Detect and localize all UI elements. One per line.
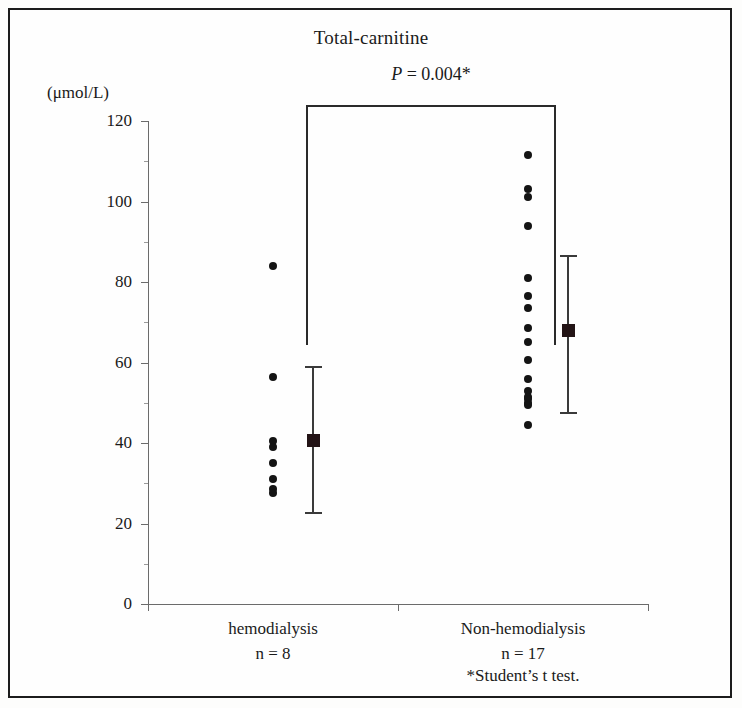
y-axis-tick	[141, 202, 148, 203]
data-point	[269, 489, 277, 497]
data-point	[524, 338, 532, 346]
mean-marker	[307, 434, 320, 447]
y-axis-tick	[141, 363, 148, 364]
data-point	[524, 375, 532, 383]
footnote: *Student’s t test.	[398, 666, 648, 686]
y-axis-minor-tick	[144, 483, 148, 484]
plot-area: 020406080100120hemodialysisn = 8Non-hemo…	[0, 0, 742, 708]
data-point	[524, 401, 532, 409]
data-point	[524, 304, 532, 312]
error-bar-lower-cap	[560, 412, 577, 414]
figure-root: Total-carnitine P = 0.004* (μmol/L) 0204…	[0, 0, 742, 708]
y-axis-tick	[141, 524, 148, 525]
y-axis-minor-tick	[144, 564, 148, 565]
group-sample-size: n = 8	[148, 642, 398, 667]
y-axis-tick-label: 100	[62, 193, 132, 210]
data-point	[269, 373, 277, 381]
x-axis-category-label-1: hemodialysisn = 8	[148, 617, 398, 666]
mean-marker	[562, 324, 575, 337]
data-point	[269, 443, 277, 451]
group-name: hemodialysis	[148, 617, 398, 642]
data-point	[524, 292, 532, 300]
y-axis-tick-label: 120	[62, 112, 132, 129]
x-axis-left-tick	[148, 604, 149, 611]
data-point	[524, 222, 532, 230]
x-axis-category-divider-tick	[398, 604, 399, 611]
y-axis-tick	[141, 604, 148, 605]
y-axis-minor-tick	[144, 242, 148, 243]
data-point	[269, 262, 277, 270]
group-name: Non-hemodialysis	[398, 617, 648, 642]
y-axis-tick	[141, 443, 148, 444]
y-axis-tick-label: 0	[62, 595, 132, 612]
y-axis-line	[148, 121, 149, 605]
data-point	[524, 274, 532, 282]
x-axis-category-label-2: Non-hemodialysisn = 17	[398, 617, 648, 666]
data-point	[269, 475, 277, 483]
y-axis-tick-label: 20	[62, 515, 132, 532]
y-axis-tick-label: 80	[62, 273, 132, 290]
data-point	[524, 151, 532, 159]
data-point	[524, 421, 532, 429]
y-axis-minor-tick	[144, 161, 148, 162]
y-axis-tick	[141, 121, 148, 122]
data-point	[524, 356, 532, 364]
data-point	[524, 185, 532, 193]
y-axis-tick-label: 40	[62, 434, 132, 451]
group-sample-size: n = 17	[398, 642, 648, 667]
error-bar-lower-cap	[305, 512, 322, 514]
error-bar-upper-cap	[305, 366, 322, 368]
y-axis-minor-tick	[144, 322, 148, 323]
data-point	[269, 459, 277, 467]
data-point	[524, 324, 532, 332]
y-axis-tick	[141, 282, 148, 283]
x-axis-right-tick	[648, 604, 649, 611]
data-point	[524, 193, 532, 201]
y-axis-minor-tick	[144, 403, 148, 404]
error-bar-upper-cap	[560, 255, 577, 257]
y-axis-tick-label: 60	[62, 354, 132, 371]
